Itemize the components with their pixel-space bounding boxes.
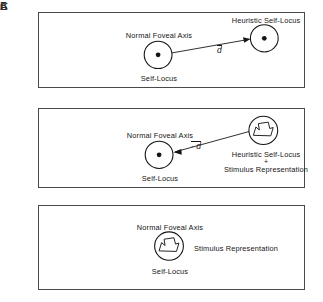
vector-arrow-line xyxy=(172,39,249,53)
vector-negative-d-label: - d xyxy=(191,141,201,151)
panel-label-c: C xyxy=(0,0,8,12)
vector-d-glyph: d xyxy=(217,45,222,55)
figure-root: A Normal Foveal Axis Self-Locus Heuristi… xyxy=(0,0,323,302)
self-locus-center-dot xyxy=(156,53,161,58)
vector-d-label: d xyxy=(217,45,222,55)
vector-arrow-head xyxy=(173,149,181,155)
panel-b: Normal Foveal Axis Self-Locus Heuristic … xyxy=(38,108,305,188)
heuristic-self-locus-label: Heuristic Self-Locus xyxy=(232,16,301,25)
conjunction-plus-symbol: + xyxy=(264,158,268,165)
normal-foveal-axis-label: Normal Foveal Axis xyxy=(126,31,192,40)
vector-negative-d-glyph: - d xyxy=(191,141,201,151)
self-locus-label: Self-Locus xyxy=(142,174,178,183)
heuristic-self-locus-center-dot xyxy=(262,36,267,41)
self-locus-label: Self-Locus xyxy=(152,267,188,276)
vector-arrow-head xyxy=(243,37,250,42)
panel-c: Normal Foveal Axis Self-Locus Stimulus R… xyxy=(38,205,305,290)
stimulus-representation-label: Stimulus Representation xyxy=(194,244,278,253)
self-locus-label: Self-Locus xyxy=(141,74,177,83)
panel-a: Normal Foveal Axis Self-Locus Heuristic … xyxy=(38,12,305,88)
stimulus-representation-label: Stimulus Representation xyxy=(224,165,308,174)
normal-foveal-axis-label: Normal Foveal Axis xyxy=(137,223,203,232)
normal-foveal-axis-label: Normal Foveal Axis xyxy=(127,131,193,140)
self-locus-center-dot xyxy=(157,152,162,157)
